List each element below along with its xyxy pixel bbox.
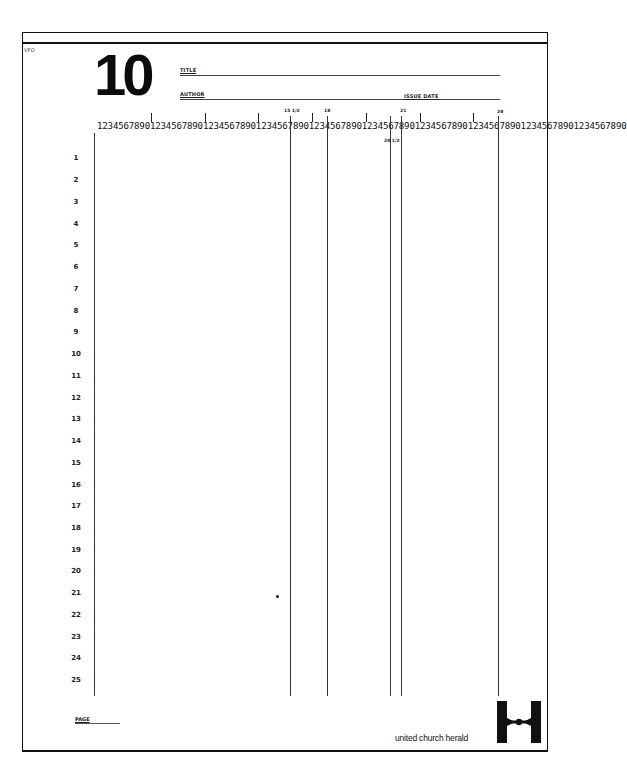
row-number: 21 xyxy=(66,589,86,597)
row-number: 10 xyxy=(66,350,86,358)
row-number: 5 xyxy=(66,241,86,249)
column-line-28 xyxy=(498,116,499,696)
ruler-tick xyxy=(151,113,152,122)
row-number: 6 xyxy=(66,263,86,271)
row-number: 20 xyxy=(66,567,86,575)
column-line-20-half xyxy=(390,116,391,696)
row-number: 7 xyxy=(66,285,86,293)
row-number: 16 xyxy=(66,481,86,489)
form-code: VPO xyxy=(24,47,35,53)
page-number-large: 10 xyxy=(94,42,151,108)
row-number: 18 xyxy=(66,524,86,532)
author-label: AUTHOR xyxy=(180,91,205,97)
row-number: 25 xyxy=(66,676,86,684)
column-line-18 xyxy=(327,116,328,696)
marker-18: 18 xyxy=(324,108,330,113)
row-number: 9 xyxy=(66,328,86,336)
brand-name: united church herald xyxy=(395,733,468,743)
row-number: 15 xyxy=(66,459,86,467)
title-label: TITLE xyxy=(180,67,196,73)
column-line-21 xyxy=(401,116,402,696)
row-number: 4 xyxy=(66,220,86,228)
title-line[interactable] xyxy=(180,75,500,76)
left-margin-line xyxy=(94,133,95,696)
frame-top-band xyxy=(22,32,548,42)
column-line-15-half xyxy=(290,116,291,696)
ink-dot xyxy=(276,595,279,598)
page-label: PAGE xyxy=(75,716,90,722)
marker-20-half: 20 1/2 xyxy=(384,138,400,143)
issue-date-label: ISSUE DATE xyxy=(404,93,439,99)
ruler-tick xyxy=(205,113,206,122)
row-number: 2 xyxy=(66,176,86,184)
marker-21: 21 xyxy=(400,108,406,113)
ruler-tick xyxy=(420,113,421,122)
marker-28: 28 xyxy=(497,109,503,114)
row-number: 1 xyxy=(66,154,86,162)
character-count-ruler: 1234567890123456789012345678901234567890… xyxy=(97,121,627,131)
row-number: 17 xyxy=(66,502,86,510)
row-number: 22 xyxy=(66,611,86,619)
page-line[interactable] xyxy=(75,723,120,724)
row-number: 3 xyxy=(66,198,86,206)
marker-15-half: 15 1/2 xyxy=(284,108,300,113)
ruler-tick xyxy=(312,113,313,122)
row-number: 12 xyxy=(66,394,86,402)
ruler-tick xyxy=(366,113,367,122)
row-number: 13 xyxy=(66,415,86,423)
row-number: 24 xyxy=(66,654,86,662)
row-number: 14 xyxy=(66,437,86,445)
form-frame xyxy=(22,44,548,752)
author-line[interactable] xyxy=(180,99,500,100)
row-number: 23 xyxy=(66,633,86,641)
ruler-tick xyxy=(473,113,474,122)
row-number: 11 xyxy=(66,372,86,380)
herald-logo-icon xyxy=(497,701,541,743)
row-number: 8 xyxy=(66,307,86,315)
row-number: 19 xyxy=(66,546,86,554)
ruler-tick xyxy=(258,113,259,122)
